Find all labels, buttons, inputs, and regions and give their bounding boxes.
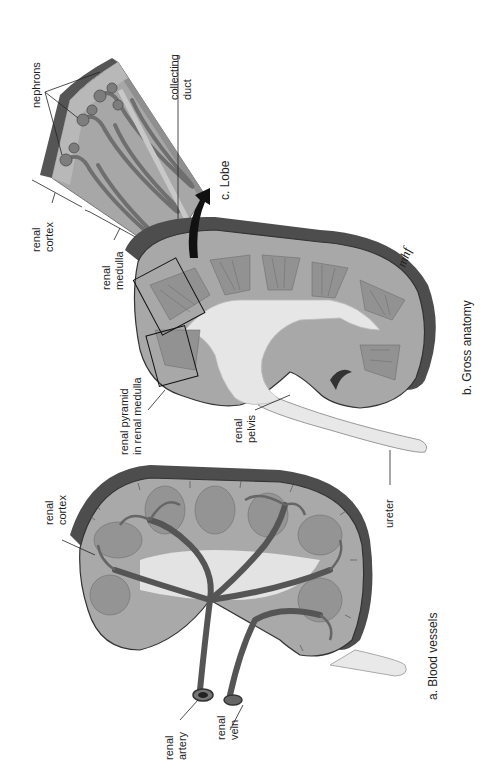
label-renal-vein: renal vein	[215, 716, 241, 740]
label-renal-cortex-vessels: renal cortex	[43, 495, 69, 525]
label-nephrons: nephrons	[30, 62, 43, 108]
caption-gross-anatomy: b. Gross anatomy	[460, 300, 474, 395]
label-collecting-duct: collecting duct	[168, 54, 194, 100]
blood-vessels-kidney	[70, 465, 406, 705]
caption-blood-vessels: a. Blood vessels	[426, 613, 440, 700]
label-renal-medulla: renal medulla	[100, 251, 126, 290]
caption-lobe: c. Lobe	[218, 161, 232, 200]
label-renal-cortex-lobe: renal cortex	[30, 222, 56, 252]
label-renal-pelvis: renal pelvis	[232, 415, 258, 443]
kidney-diagram: mhf	[0, 0, 495, 782]
label-renal-pyramid: renal pyramid in renal medulla	[118, 377, 144, 455]
label-ureter: ureter	[383, 499, 396, 528]
label-renal-artery: renal artery	[163, 732, 189, 760]
gross-anatomy-kidney	[125, 188, 436, 452]
